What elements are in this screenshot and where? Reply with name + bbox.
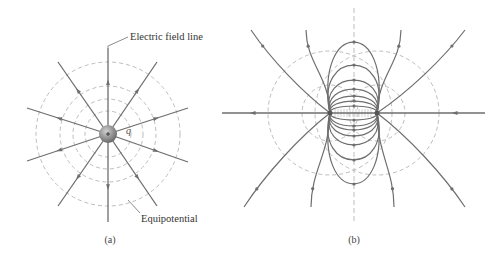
arrowhead-icon [255,187,258,190]
field-line [108,62,157,134]
point-charge-panel [27,37,188,222]
caption-a: (a) [104,234,115,245]
arrowhead-icon [352,134,355,137]
field-line [377,30,465,113]
field-line [27,108,108,134]
field-line [306,30,330,113]
arrowhead-icon [352,158,355,161]
arrowhead-icon [352,124,355,127]
arrowhead-icon [261,44,264,47]
arrowhead-icon [352,99,355,102]
equipotential-label: Equipotential [141,213,198,224]
field-line [377,30,401,113]
arrowhead-icon [250,111,256,115]
arrowhead-icon [352,40,355,43]
field-line [108,134,188,162]
arrowhead-icon [352,143,355,146]
charge-q-label: q [126,125,131,136]
arrowhead-icon [391,187,394,190]
arrowhead-icon [352,78,355,81]
arrowhead-icon [397,45,400,48]
arrowhead-icon [56,148,62,152]
arrowhead-icon [352,94,355,97]
electric-field-line-label: Electric field line [130,31,203,42]
arrowhead-icon [106,184,110,190]
field-line [58,134,108,206]
label-leader [108,37,128,48]
arrowhead-icon [352,63,355,66]
caption-b: (b) [348,234,360,245]
field-line [108,108,188,134]
point-charge [328,111,333,116]
arrowhead-icon [106,79,110,85]
dipole-panel [222,8,485,222]
point-charge [375,111,380,116]
field-line [108,134,157,206]
arrowhead-icon [352,104,355,107]
arrowhead-icon [452,111,458,115]
arrowhead-icon [352,128,355,131]
label-leader [128,200,140,213]
arrowhead-icon [352,118,355,121]
field-line [244,113,330,207]
arrowhead-icon [450,187,453,190]
field-line [58,62,108,134]
arrowhead-icon [352,87,355,90]
arrowhead-icon [352,182,355,185]
field-diagram [0,0,502,260]
arrowhead-icon [311,187,314,190]
field-line [27,134,108,161]
arrowhead-icon [307,45,310,48]
arrowhead-icon [450,44,453,47]
